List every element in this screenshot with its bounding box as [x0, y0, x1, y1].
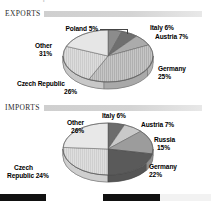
imports-header-rule: [44, 105, 202, 111]
exports-pie-svg: [62, 28, 154, 90]
exports-label-other-name: Other: [0, 42, 52, 50]
exports-label-germany-name: Germany: [158, 65, 186, 73]
imports-label-russia-name: Russia: [154, 136, 175, 144]
exports-pie-graphic: [62, 28, 154, 90]
exports-title: EXPORTS: [5, 9, 41, 18]
imports-label-other-pct: 26%: [38, 127, 84, 135]
footer-segment-4: [160, 194, 211, 201]
imports-label-russia-pct: 15%: [157, 144, 170, 152]
imports-label-germany-pct: 22%: [149, 171, 162, 179]
clipped-top-text-label: Imports 24%: [34, 0, 79, 1]
infographic-page: Imports 24% EXPORTS: [0, 0, 211, 204]
footer-bar: [0, 194, 211, 201]
exports-label-other-pct: 31%: [0, 50, 52, 58]
poland-leader-line: [100, 29, 128, 30]
imports-pie-chart: Italy 6% Austria 7% Russia 15% Other 26%…: [0, 112, 211, 188]
imports-label-czech-name: Czech: [14, 164, 33, 172]
imports-label-italy: Italy 6%: [102, 112, 126, 120]
footer-segment-2: [46, 194, 103, 201]
footer-segment-1: [0, 194, 46, 201]
exports-pie-chart: Poland 5% Italy 6% Austria 7% Other 31% …: [0, 20, 211, 98]
poland-leader-tick: [127, 29, 128, 34]
imports-label-austria: Austria 7%: [141, 121, 174, 129]
exports-label-poland: Poland 5%: [30, 25, 98, 33]
exports-label-czech-pct: 26%: [17, 88, 77, 96]
exports-header-rule: [44, 11, 202, 17]
imports-label-czech-pct: Republic 24%: [7, 172, 49, 180]
exports-label-czech-name: Czech Republic: [17, 80, 65, 88]
clipped-top-text: Imports 24%: [0, 0, 211, 5]
exports-label-germany-pct: 25%: [158, 73, 171, 81]
imports-label-germany-name: Germany: [149, 163, 177, 171]
imports-title: IMPORTS: [5, 103, 40, 112]
exports-label-austria: Austria 7%: [155, 33, 188, 41]
imports-label-other-name: Other: [38, 119, 84, 127]
exports-label-italy: Italy 6%: [150, 24, 174, 32]
footer-segment-3: [103, 194, 160, 201]
